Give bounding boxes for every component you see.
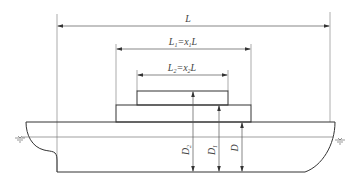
label-D: D [229, 144, 240, 153]
superstructure-first-tier [116, 105, 251, 122]
label-L: L [184, 13, 191, 24]
waterline-symbol-right [335, 138, 345, 144]
label-D1: D1 [206, 145, 218, 156]
superstructure-second-tier [137, 91, 228, 105]
label-L2: L2=x2L [167, 62, 197, 74]
hull-outline [26, 122, 335, 172]
label-D2: D2 [180, 145, 192, 156]
label-L1: L1=x1L [168, 36, 198, 48]
ship-diagram: L L1=x1L L2=x2L D2 D1 D [0, 0, 357, 186]
